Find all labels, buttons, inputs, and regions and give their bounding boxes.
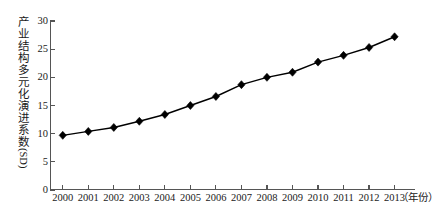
x-axis-tick-label: 2011 bbox=[333, 193, 354, 204]
y-axis-tick-label: 5 bbox=[43, 157, 48, 168]
x-axis-tick-mark bbox=[164, 185, 165, 190]
chart-container: 产业结构多元化演进系数(SD) 051015202530 20002001200… bbox=[0, 0, 448, 220]
x-axis-tick-label: 2005 bbox=[180, 193, 201, 204]
data-point-marker bbox=[85, 127, 92, 135]
plot-area bbox=[50, 21, 415, 190]
y-axis-title: 产业结构多元化演进系数(SD) bbox=[11, 16, 28, 192]
y-axis-tick-mark bbox=[50, 133, 55, 134]
x-axis-tick-mark bbox=[266, 185, 267, 190]
x-axis-tick-label: 2000 bbox=[52, 193, 73, 204]
x-axis-tick-label: 2004 bbox=[154, 193, 175, 204]
y-axis-tick-mark bbox=[50, 105, 55, 106]
data-point-marker bbox=[59, 131, 66, 139]
x-axis-tick-label: 2010 bbox=[308, 193, 329, 204]
x-axis-tick-mark bbox=[241, 185, 242, 190]
data-point-marker bbox=[340, 51, 347, 59]
data-point-marker bbox=[263, 73, 270, 81]
data-point-marker bbox=[314, 58, 321, 66]
data-point-marker bbox=[136, 117, 143, 125]
x-axis-tick-labels: 2000200120022003200420052006200720082009… bbox=[0, 193, 448, 213]
x-axis-tick-label: 2003 bbox=[129, 193, 150, 204]
data-point-marker bbox=[161, 111, 168, 119]
y-axis-tick-label: 10 bbox=[38, 128, 49, 139]
x-axis-tick-label: 2007 bbox=[231, 193, 252, 204]
y-axis-tick-mark bbox=[50, 161, 55, 162]
x-axis-tick-mark bbox=[139, 185, 140, 190]
x-axis-tick-mark bbox=[317, 185, 318, 190]
data-series-diversification-coefficient bbox=[50, 21, 415, 190]
y-axis-tick-label: 15 bbox=[38, 100, 49, 111]
data-point-marker bbox=[212, 92, 219, 100]
y-axis-tick-mark bbox=[50, 49, 55, 50]
x-axis-tick-mark bbox=[343, 185, 344, 190]
x-axis-tick-mark bbox=[88, 185, 89, 190]
data-point-marker bbox=[187, 102, 194, 110]
x-axis-tick-mark bbox=[215, 185, 216, 190]
y-axis-tick-mark bbox=[50, 77, 55, 78]
data-point-marker bbox=[391, 33, 398, 41]
x-axis-tick-label: 2012 bbox=[359, 193, 380, 204]
data-point-marker bbox=[289, 68, 296, 76]
x-axis-tick-label: 2002 bbox=[103, 193, 124, 204]
y-axis-tick-mark bbox=[50, 189, 55, 190]
x-axis-tick-mark bbox=[292, 185, 293, 190]
y-axis-tick-labels: 051015202530 bbox=[28, 0, 48, 220]
x-axis-title: （年份） bbox=[398, 193, 438, 204]
x-axis-tick-mark bbox=[394, 185, 395, 190]
x-axis-tick-label: 2001 bbox=[78, 193, 99, 204]
y-axis-title-text: 产业结构多元化演进系数 bbox=[17, 16, 29, 148]
y-axis-unit-text: (SD) bbox=[18, 148, 29, 168]
x-axis-tick-label: 2009 bbox=[282, 193, 303, 204]
y-axis-tick-mark bbox=[50, 20, 55, 21]
x-axis-tick-mark bbox=[113, 185, 114, 190]
y-axis-tick-label: 20 bbox=[38, 72, 49, 83]
x-axis-tick-label: 2008 bbox=[256, 193, 277, 204]
y-axis-tick-label: 30 bbox=[38, 16, 49, 27]
x-axis-tick-mark bbox=[62, 185, 63, 190]
data-point-marker bbox=[110, 123, 117, 131]
series-line bbox=[63, 37, 395, 136]
data-point-marker bbox=[238, 81, 245, 89]
y-axis-tick-label: 25 bbox=[38, 44, 49, 55]
x-axis-tick-mark bbox=[368, 185, 369, 190]
x-axis-tick-label: 2006 bbox=[205, 193, 226, 204]
x-axis-tick-mark bbox=[190, 185, 191, 190]
data-point-marker bbox=[365, 43, 372, 51]
